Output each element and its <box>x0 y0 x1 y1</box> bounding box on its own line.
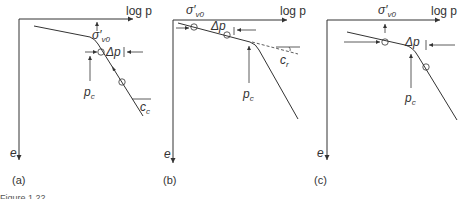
panel-c: log p e σ′v0 Δp pc (c) <box>314 3 457 186</box>
y-axis-label: e <box>317 146 324 160</box>
data-point-circle <box>382 39 388 45</box>
sigma-label: σ′v0 <box>92 28 111 44</box>
e-logp-curve <box>34 26 143 116</box>
pc-label: pc <box>83 85 95 101</box>
panel-b: log p e cr σ′v0 Δp pc (b) <box>163 3 306 186</box>
x-axis-label: log p <box>280 4 306 18</box>
consolidation-diagram: log p e σ′v0 Δp pc cc (a) log p e <box>0 0 467 199</box>
direction-arrow-icon <box>112 66 116 71</box>
x-axis-label: log p <box>431 4 457 18</box>
delta-p-label: Δp <box>105 45 121 59</box>
delta-p-label: Δp <box>404 35 420 49</box>
x-axis-label: log p <box>126 4 152 18</box>
cc-label: cc <box>140 100 150 116</box>
slope-arc-icon <box>289 47 290 51</box>
pc-label: pc <box>242 87 254 103</box>
cr-label: cr <box>280 53 289 69</box>
e-logp-curve <box>178 23 298 119</box>
panel-label: (a) <box>12 174 25 186</box>
sigma-label: σ′v0 <box>186 3 205 19</box>
y-axis-label: e <box>10 146 17 160</box>
sigma-label: σ′v0 <box>378 3 397 19</box>
pc-label: pc <box>404 91 416 107</box>
delta-p-label: Δp <box>210 19 226 33</box>
y-axis-label: e <box>164 147 171 161</box>
panel-label: (b) <box>163 174 176 186</box>
dashed-extension <box>252 42 298 54</box>
figure-caption-fragment: Figure 1.22 <box>0 194 46 199</box>
panel-a: log p e σ′v0 Δp pc cc (a) <box>10 4 152 186</box>
panel-label: (c) <box>314 174 327 186</box>
